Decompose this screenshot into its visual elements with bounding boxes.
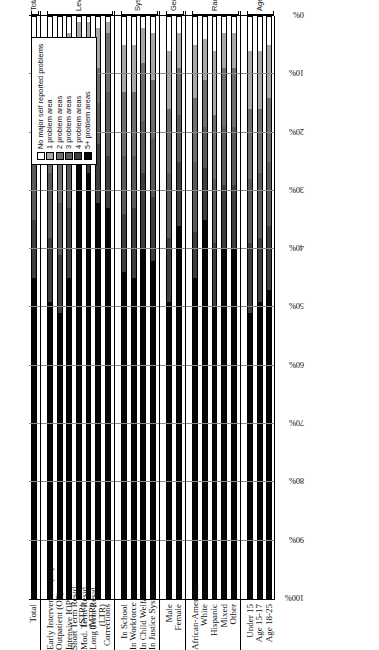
group-separator xyxy=(114,11,115,650)
x-axis-line xyxy=(274,16,275,600)
group-label: Gender xyxy=(169,0,178,11)
bar-segment xyxy=(66,208,72,278)
bar-segment xyxy=(231,16,237,33)
bar-segment xyxy=(202,16,208,39)
bar-segment xyxy=(131,208,137,278)
bar-segment xyxy=(221,68,227,126)
legend-swatch-icon xyxy=(56,152,64,160)
bar-segment xyxy=(131,45,137,92)
chart-legend: No major self reported problems1 problem… xyxy=(31,37,97,165)
group-bracket xyxy=(121,11,158,15)
bar-segment xyxy=(257,173,263,237)
bar-row xyxy=(221,16,227,599)
bar-segment xyxy=(86,16,92,22)
rotated-figure-wrapper: 100%90%80%70%60%50%40%30%20%10%0% TotalE… xyxy=(0,0,379,650)
category-label: In Workforce xyxy=(129,604,138,650)
bar-segment xyxy=(95,16,101,28)
bar-segment xyxy=(247,243,253,313)
bar-segment xyxy=(221,185,227,249)
legend-item[interactable]: 4 problem areas xyxy=(74,43,83,160)
x-tick-label: 60% xyxy=(289,360,304,370)
bar-segment xyxy=(221,127,227,185)
x-tick-label: 20% xyxy=(289,127,304,137)
bar-segment xyxy=(166,16,172,51)
legend-item[interactable]: 1 problem area xyxy=(45,43,54,160)
x-tick-label: 40% xyxy=(289,243,304,253)
bar-segment xyxy=(57,203,63,255)
grid-line xyxy=(29,481,274,482)
group-label: Level of Care xyxy=(74,0,83,11)
group-bracket xyxy=(31,11,39,15)
bar-segment xyxy=(192,45,198,97)
bar-segment xyxy=(66,278,72,599)
group-bracket xyxy=(192,11,238,15)
group-bracket xyxy=(166,11,183,15)
bar-segment xyxy=(176,162,182,226)
category-label: Female xyxy=(174,604,183,650)
bar-segment xyxy=(140,121,146,173)
legend-label: No major self reported problems xyxy=(36,43,45,149)
bar-segment xyxy=(47,302,53,599)
bar-segment xyxy=(105,92,111,156)
bar-segment xyxy=(257,238,263,302)
bar-segment xyxy=(150,138,156,196)
x-tick-label: 30% xyxy=(289,185,304,195)
bar-segment xyxy=(105,22,111,34)
x-tick-label: 100% xyxy=(285,593,304,603)
bar-segment xyxy=(212,51,218,115)
grid-line xyxy=(29,365,274,366)
bar-segment xyxy=(121,272,127,598)
bar-segment xyxy=(131,16,137,45)
bar-segment xyxy=(192,162,198,232)
bar-segment xyxy=(121,156,127,214)
bar-segment xyxy=(247,179,253,243)
bar-segment xyxy=(57,255,63,313)
bar-row xyxy=(192,16,198,599)
group-bracket xyxy=(247,11,274,15)
bar-segment xyxy=(140,63,146,121)
bar-row xyxy=(140,16,146,599)
bar-segment xyxy=(212,115,218,179)
bar-segment xyxy=(176,68,182,115)
grid-line xyxy=(29,307,274,308)
group-separator xyxy=(185,11,186,650)
legend-item[interactable]: 2 problem areas xyxy=(55,43,64,160)
group-label: Age Group xyxy=(255,0,264,11)
bar-row xyxy=(131,16,137,599)
grid-line xyxy=(29,190,274,191)
legend-label: 5+ problem areas xyxy=(83,91,92,149)
bar-segment xyxy=(221,33,227,68)
x-tick-label: 10% xyxy=(289,68,304,78)
x-tick-label: 70% xyxy=(289,418,304,428)
bar-row xyxy=(247,16,253,599)
group-label: Total xyxy=(29,0,38,11)
bar-segment xyxy=(105,16,111,22)
bar-segment xyxy=(202,168,208,220)
legend-label: 4 problem areas xyxy=(74,96,83,149)
legend-item[interactable]: No major self reported problems xyxy=(36,43,45,160)
bar-segment xyxy=(140,173,146,249)
category-label: Outpatient (OP) xyxy=(55,604,64,650)
legend-item[interactable]: 5+ problem areas xyxy=(83,43,92,160)
legend-item[interactable]: 3 problem areas xyxy=(64,43,73,160)
bar-segment xyxy=(176,33,182,68)
category-label: Age 18-25 xyxy=(265,604,274,650)
bar-row xyxy=(166,16,172,599)
legend-label: 3 problem areas xyxy=(64,96,73,149)
bar-segment xyxy=(202,127,208,168)
bar-segment xyxy=(266,162,272,226)
bar-segment xyxy=(221,16,227,33)
group-label: Race Group xyxy=(210,0,219,11)
bar-row xyxy=(150,16,156,599)
bar-segment xyxy=(212,307,218,599)
grid-line xyxy=(29,248,274,249)
group-separator xyxy=(159,11,160,650)
bar-segment xyxy=(212,16,218,51)
bar-segment xyxy=(131,156,137,208)
bar-segment xyxy=(121,214,127,272)
group-bracket xyxy=(47,11,112,15)
bar-segment xyxy=(57,313,63,599)
bar-segment xyxy=(257,16,263,51)
x-tick-label: 0% xyxy=(293,10,304,20)
category-label: Total xyxy=(29,604,38,650)
